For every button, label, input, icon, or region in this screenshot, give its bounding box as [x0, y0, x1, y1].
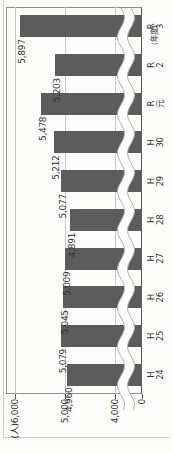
category-label-R2: R 2 [147, 46, 164, 85]
category-label-H27: H 27 [147, 239, 164, 278]
category-label-H24: H 24 [147, 355, 164, 394]
value-label: 4,891 [67, 233, 77, 275]
bar-H28 [70, 209, 142, 231]
bar-H30 [54, 131, 142, 153]
value-label: 5,009 [62, 272, 72, 314]
bar-H26 [63, 286, 142, 308]
category-label-H30: H 30 [147, 123, 164, 162]
category-label-R元: R 元 [147, 84, 164, 123]
value-label: 5,212 [51, 155, 61, 197]
category-label-H25: H 25 [147, 317, 164, 356]
category-label-H28: H 28 [147, 201, 164, 240]
x-axis-unit-label: (年度) [150, 25, 159, 45]
y-tick-label: 4,000 [110, 399, 120, 451]
gridline [15, 7, 16, 394]
bar-R3 [20, 15, 142, 37]
value-label: 5,897 [17, 39, 27, 81]
bar-R2 [55, 54, 142, 76]
rotated-bar-chart: 4,9605,0795,0455,0094,8915,0775,2125,478… [0, 0, 173, 453]
value-label: 5,478 [38, 117, 48, 159]
category-label-H26: H 26 [147, 278, 164, 317]
scanned-chart-page: 4,9605,0795,0455,0094,8915,0775,2125,478… [0, 0, 173, 453]
y-tick-label: 0 [137, 399, 147, 451]
category-label-H29: H 29 [147, 162, 164, 201]
y-tick-label: (人)6,000 [10, 399, 20, 451]
y-tick-label: 5,000 [60, 399, 70, 451]
value-label: 5,045 [60, 310, 70, 352]
bar-H25 [61, 325, 142, 347]
value-label: 5,079 [58, 349, 68, 391]
value-label: 5,203 [52, 78, 62, 120]
value-label: 5,077 [58, 194, 68, 236]
bar-H29 [61, 170, 142, 192]
bar-H24 [67, 364, 142, 386]
